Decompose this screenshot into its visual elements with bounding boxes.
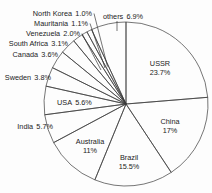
slice-percent: 3.8% xyxy=(34,73,51,82)
slice-label-ussr: USSR23.7% xyxy=(150,59,171,77)
slice-name: Venezuela xyxy=(26,29,61,38)
slice-label-usa: USA5.6% xyxy=(57,98,92,107)
slice-label-canada: Canada3.6% xyxy=(13,50,59,59)
slice-label-india: India5.7% xyxy=(17,122,53,131)
slice-percent: 3.1% xyxy=(51,39,68,48)
slice-label-venezuela: Venezuela2.0% xyxy=(26,29,80,38)
slice-label-others: others6.9% xyxy=(103,12,144,21)
pie-chart: USSR23.7%China17%Brazil15.5%Australia11%… xyxy=(0,0,212,193)
slice-name: USSR xyxy=(150,59,170,68)
slice-name: South Africa xyxy=(9,39,49,48)
slice-label-sweden: Sweden3.8% xyxy=(5,73,52,82)
slice-name: Sweden xyxy=(5,73,31,82)
slice-percent: 2.0% xyxy=(63,29,80,38)
slice-name: Australia xyxy=(76,137,105,146)
slice-percent: 5.7% xyxy=(36,122,53,131)
slice-percent: 23.7% xyxy=(150,68,171,77)
slice-name: USA xyxy=(57,98,72,107)
slice-name: Brazil xyxy=(120,153,139,162)
slice-name: Mauritania xyxy=(34,19,69,28)
slice-south-africa xyxy=(62,41,126,104)
slice-percent: 5.6% xyxy=(75,98,92,107)
leader-venezuela xyxy=(82,34,101,71)
slice-name: China xyxy=(160,117,180,126)
slice-north-korea xyxy=(87,30,126,104)
slice-percent: 1.0% xyxy=(75,9,92,18)
slice-percent: 1.1% xyxy=(71,19,88,28)
slice-percent: 6.9% xyxy=(126,12,143,21)
slice-name: India xyxy=(17,122,34,131)
slice-name: Canada xyxy=(13,50,40,59)
slice-label-south-africa: South Africa3.1% xyxy=(9,39,69,48)
slice-percent: 3.6% xyxy=(41,50,58,59)
slice-name: others xyxy=(103,12,124,21)
slice-label-australia: Australia11% xyxy=(76,137,105,155)
slice-percent: 15.5% xyxy=(119,162,140,171)
pie-chart-figure: USSR23.7%China17%Brazil15.5%Australia11%… xyxy=(0,0,212,193)
slice-label-mauritania: Mauritania1.1% xyxy=(34,19,88,28)
slice-venezuela xyxy=(74,35,126,104)
slice-percent: 11% xyxy=(83,146,98,155)
slice-percent: 17% xyxy=(163,126,178,135)
slice-label-china: China17% xyxy=(160,117,180,135)
slice-label-north-korea: North Korea1.0% xyxy=(33,9,93,18)
leader-mauritania xyxy=(90,24,105,69)
slice-name: North Korea xyxy=(33,9,73,18)
slice-label-brazil: Brazil15.5% xyxy=(119,153,140,171)
slice-others xyxy=(92,22,126,104)
